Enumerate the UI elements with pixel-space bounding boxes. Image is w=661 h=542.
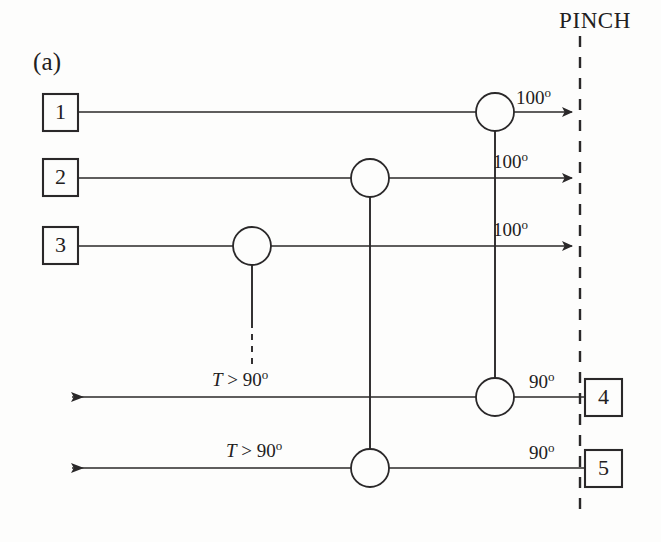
- stream-4-outlet-temp: 90o: [529, 372, 555, 391]
- exchanger-stream3: [233, 227, 271, 265]
- condition-label-lower: T > 90o: [226, 441, 282, 460]
- stream-1-outlet-temp: 100o: [516, 88, 551, 107]
- stream-5-outlet-temp: 90o: [529, 443, 555, 462]
- stream-3-outlet-temp: 100o: [493, 220, 528, 239]
- stream-5-outlet-temp-value: 90: [529, 442, 548, 463]
- degree-symbol-5: o: [548, 440, 555, 455]
- condition-label-upper: T > 90o: [212, 370, 268, 389]
- condition-upper-relation: >: [223, 369, 243, 390]
- exchanger-stream5: [351, 449, 389, 487]
- stream-3-outlet-temp-value: 100: [493, 219, 522, 240]
- panel-label: (a): [33, 49, 61, 74]
- stream-1-outlet-temp-value: 100: [516, 87, 545, 108]
- stream-1-box-number: 1: [43, 101, 78, 123]
- pinch-grid-diagram: (a) PINCH 100o 100o 100o 90o 90o T > 90o…: [0, 0, 661, 542]
- stream-2-outlet-temp: 100o: [493, 152, 528, 171]
- exchanger-stream1: [476, 93, 514, 131]
- stream-2-outlet-temp-value: 100: [493, 151, 522, 172]
- exchanger-stream4: [476, 378, 514, 416]
- stream-2-box-number: 2: [43, 166, 78, 188]
- condition-lower-value: 90: [257, 440, 276, 461]
- condition-upper-variable: T: [212, 369, 223, 390]
- exchanger-stream2: [351, 159, 389, 197]
- condition-lower-variable: T: [226, 440, 237, 461]
- stream-4-outlet-temp-value: 90: [529, 371, 548, 392]
- grid-diagram-canvas: [0, 0, 661, 542]
- pinch-label: PINCH: [559, 9, 631, 32]
- degree-symbol-cond-upper: o: [262, 367, 269, 382]
- stream-4-box-number: 4: [585, 386, 622, 408]
- stream-5-box-number: 5: [585, 457, 622, 479]
- stream-3-box-number: 3: [43, 234, 78, 256]
- degree-symbol-2: o: [522, 149, 529, 164]
- condition-upper-value: 90: [243, 369, 262, 390]
- degree-symbol-3: o: [522, 217, 529, 232]
- degree-symbol-cond-lower: o: [276, 438, 283, 453]
- condition-lower-relation: >: [237, 440, 257, 461]
- degree-symbol-4: o: [548, 369, 555, 384]
- degree-symbol-1: o: [545, 85, 552, 100]
